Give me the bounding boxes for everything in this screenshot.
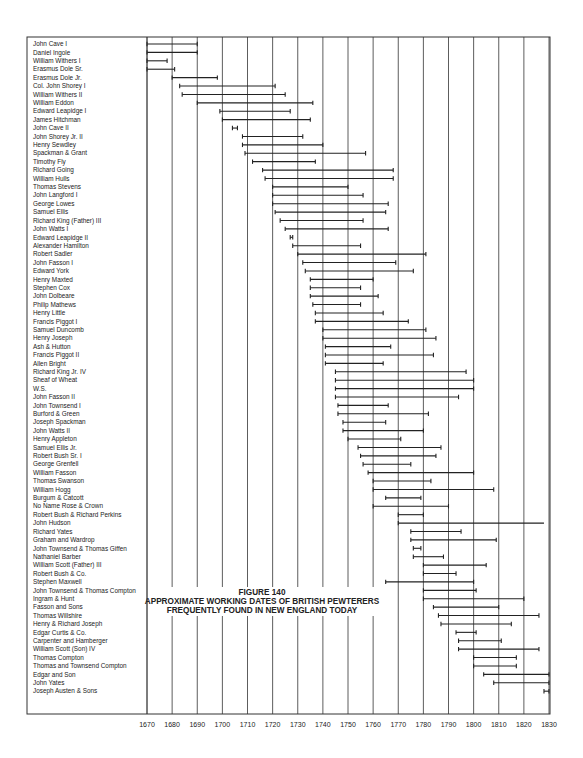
date-range-bar [323, 336, 436, 340]
date-range-bar [363, 462, 411, 466]
date-range-bar [398, 521, 544, 525]
pewterer-label: William Eddon [33, 99, 74, 106]
date-range-bar [386, 496, 421, 500]
x-tick-label: 1730 [290, 721, 306, 728]
date-range-bar [474, 664, 517, 668]
pewterer-label: John Watts II [33, 427, 70, 434]
pewterer-label: William Fasson [33, 469, 77, 476]
figure-caption-line-2: FREQUENTLY FOUND IN NEW ENGLAND TODAY [167, 606, 358, 615]
pewterer-label: Edward York [33, 267, 70, 274]
pewterer-label: John Townsend I [33, 402, 81, 409]
pewterer-label: W.S. [33, 385, 47, 392]
date-range-bar [310, 294, 378, 298]
pewterer-label: James Hitchman [33, 116, 81, 123]
x-tick-label: 1820 [516, 721, 532, 728]
pewterer-label: Robert Bush Sr. I [33, 452, 82, 459]
pewterer-label: Burford & Green [33, 410, 80, 417]
date-range-bar [273, 193, 363, 197]
pewterer-label: Stephen Maxwell [33, 578, 82, 586]
date-range-bar [413, 546, 421, 550]
x-tick-label: 1670 [139, 721, 155, 728]
pewterer-label: George Lowes [33, 200, 75, 208]
x-tick-label: 1710 [240, 721, 256, 728]
date-range-bar [315, 319, 408, 323]
x-tick-label: 1800 [466, 721, 482, 728]
pewterer-label: William Withers II [33, 91, 83, 98]
date-range-bar [423, 571, 456, 575]
figure-number: FIGURE 140 [239, 588, 286, 597]
pewterer-label: No Name Rose & Crown [33, 502, 103, 509]
date-range-bar [263, 168, 394, 172]
date-range-bar [303, 260, 396, 264]
pewterer-label: Burgum & Catcott [33, 494, 84, 502]
date-range-bar [441, 622, 511, 626]
date-range-bar [275, 210, 386, 214]
pewterer-label: Henry & Richard Joseph [33, 620, 103, 628]
date-range-bar [180, 84, 275, 88]
date-range-bar [310, 277, 373, 281]
pewterer-label: Allen Bright [33, 360, 66, 368]
pewterer-label: Robert Bush & Richard Perkins [33, 511, 121, 518]
x-tick-label: 1690 [189, 721, 205, 728]
pewterer-label: Edgar Curtis & Co. [33, 629, 86, 637]
pewterer-label: John Cave I [33, 40, 67, 47]
pewterer-label: Samuel Ellis [33, 208, 68, 215]
pewterer-label: Richard Going [33, 166, 74, 174]
pewterer-label: Robert Bush & Co. [33, 570, 87, 577]
pewterer-label: Samuel Duncomb [33, 326, 84, 333]
pewterer-label: Thomas and Townsend Compton [33, 662, 127, 670]
date-range-bar [413, 555, 443, 559]
date-range-bar [273, 185, 348, 189]
date-range-bar [484, 672, 549, 676]
pewterer-name-labels: John Cave IDaniel IngoleWilliam Withers … [33, 40, 136, 695]
date-range-bar [265, 176, 393, 180]
pewterer-label: Nathaniel Barber [33, 553, 82, 560]
pewterer-label: John Yates [33, 679, 64, 686]
date-range-bar [253, 159, 316, 163]
x-tick-label: 1740 [315, 721, 331, 728]
date-range-bar [273, 201, 389, 205]
date-range-bar [398, 512, 423, 516]
date-range-bar [172, 75, 217, 79]
date-range-bar [323, 328, 426, 332]
x-tick-label: 1750 [340, 721, 356, 728]
pewterer-label: Edgar and Son [33, 671, 76, 679]
date-range-bar [338, 412, 428, 416]
date-range-bar [423, 563, 486, 567]
x-tick-label: 1760 [365, 721, 381, 728]
pewterer-label: Richard King Jr. IV [33, 368, 87, 376]
date-range-bar [220, 109, 290, 113]
date-range-bar [433, 605, 498, 609]
date-range-bar [325, 344, 390, 348]
pewterer-label: John Townsend & Thomas Giffen [33, 545, 127, 552]
pewterer-label: Henry Maxted [33, 276, 73, 284]
date-range-bar [222, 117, 310, 121]
x-tick-label: 1780 [416, 721, 432, 728]
date-range-bar [335, 370, 466, 374]
x-tick-label: 1680 [164, 721, 180, 728]
pewterer-label: Samuel Ellis Jr. [33, 444, 77, 451]
pewterer-label: John Langford I [33, 191, 78, 199]
pewterer-label: Ash & Hutton [33, 343, 71, 350]
pewterer-label: Graham and Wardrop [33, 536, 95, 544]
pewterer-label: Edward Leapidge II [33, 234, 88, 242]
x-tick-label: 1830 [541, 721, 557, 728]
pewterer-label: John Cave II [33, 124, 69, 131]
pewterer-label: Henry Joseph [33, 334, 73, 342]
pewterer-label: Sheaf of Wheat [33, 376, 77, 383]
date-range-bar [305, 269, 413, 273]
pewterer-label: Joseph Austen & Sons [33, 687, 97, 695]
pewterer-label: Thomas Compton [33, 654, 84, 662]
pewterer-label: John Watts I [33, 225, 69, 232]
pewterer-label: Thomas Swanson [33, 477, 85, 484]
pewterer-label: John Shorey Jr. II [33, 133, 83, 141]
date-range-bar [459, 639, 502, 643]
date-range-bar [386, 580, 474, 584]
date-range-bar [290, 235, 293, 239]
date-range-bar [456, 630, 476, 634]
x-tick-label: 1770 [390, 721, 406, 728]
date-range-bar [343, 420, 386, 424]
date-range-bar [147, 67, 175, 71]
pewterer-label: John Dolbeare [33, 292, 75, 299]
pewterer-label: Henry Sewdley [33, 141, 77, 149]
